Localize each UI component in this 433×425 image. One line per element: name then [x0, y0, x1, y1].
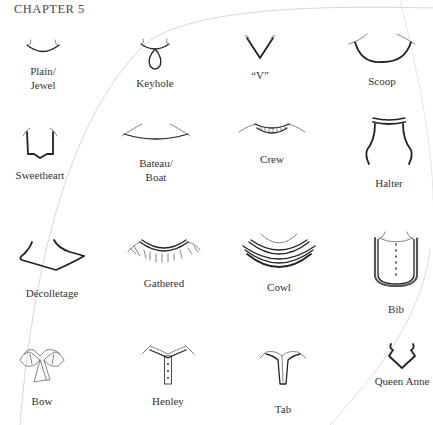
neckline-scoop: Scoop — [344, 32, 420, 88]
neckline-label: Cowl — [240, 280, 318, 294]
neckline-crew: Crew — [236, 116, 308, 166]
gathered-neckline-icon — [126, 236, 202, 264]
neckline-halter: Halter — [360, 112, 418, 190]
neckline-plain-jewel: Plain/ Jewel — [18, 38, 68, 92]
neckline-label: Crew — [236, 152, 308, 166]
neckline-label: Bow — [14, 394, 70, 408]
v-neckline-icon — [244, 32, 276, 62]
neckline-label: Scoop — [344, 74, 420, 88]
neckline-label: Décolletage — [12, 286, 92, 300]
bow-neckline-icon — [18, 346, 66, 384]
henley-neckline-icon — [140, 342, 196, 386]
neckline-label: Plain/ Jewel — [18, 64, 68, 92]
bateau-neckline-icon — [120, 120, 192, 142]
neckline-label: Tab — [258, 402, 308, 416]
plain-jewel-neckline-icon — [23, 38, 63, 54]
cowl-neckline-icon — [241, 232, 317, 274]
neckline-keyhole: Keyhole — [125, 38, 185, 90]
neckline-label: Queen Anne — [362, 374, 433, 388]
neckline-label: Keyhole — [125, 76, 185, 90]
neckline-bib: Bib — [370, 230, 422, 316]
neckline-bateau: Bateau/ Boat — [118, 120, 194, 184]
keyhole-neckline-icon — [137, 38, 173, 72]
neckline-label: Henley — [138, 394, 198, 408]
neckline-label: Bib — [370, 302, 422, 316]
neckline-sweetheart: Sweetheart — [10, 126, 70, 182]
decolletage-neckline-icon — [14, 238, 90, 274]
tab-neckline-icon — [258, 348, 308, 388]
neckline-label: Sweetheart — [10, 168, 70, 182]
neckline-tab: Tab — [258, 348, 308, 416]
bib-neckline-icon — [371, 230, 421, 288]
neckline-label: Gathered — [124, 276, 204, 290]
neckline-label: Halter — [360, 176, 418, 190]
neckline-label: Bateau/ Boat — [118, 156, 194, 184]
neckline-gathered: Gathered — [124, 236, 204, 290]
neckline-bow: Bow — [14, 346, 70, 408]
neckline-cowl: Cowl — [240, 232, 318, 294]
queen-anne-neckline-icon — [385, 340, 419, 370]
neckline-queen-anne: Queen Anne — [372, 340, 432, 388]
crew-neckline-icon — [237, 116, 307, 138]
neckline-henley: Henley — [138, 342, 198, 408]
neckline-v: “V” — [240, 32, 280, 82]
scoop-neckline-icon — [347, 32, 417, 64]
neckline-label: “V” — [240, 68, 280, 82]
neckline-decolletage: Décolletage — [12, 238, 92, 300]
chapter-header: CHAPTER 5 — [14, 2, 85, 17]
halter-neckline-icon — [361, 112, 417, 168]
sweetheart-neckline-icon — [20, 126, 60, 162]
